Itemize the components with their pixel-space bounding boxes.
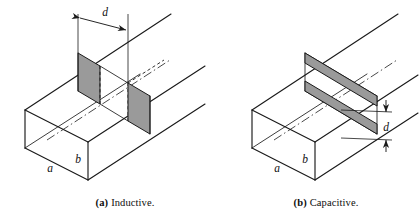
guide-edge-top-right-far-b — [315, 75, 418, 142]
panel-inductive: d a b — [25, 6, 205, 180]
front-face-top-edge — [25, 110, 88, 142]
near-iris-plate — [78, 53, 100, 104]
lower-iris-band — [305, 81, 377, 134]
caption-text-a: Inductive. — [111, 197, 154, 208]
dim-arrow-d-inductive — [80, 18, 126, 30]
far-iris-hidden-top — [128, 60, 164, 83]
upper-iris-band — [305, 53, 377, 106]
dim-label-a-inductive: a — [47, 162, 53, 174]
caption-tag-b: (b) — [294, 197, 307, 208]
panel-capacitive: d a b — [252, 14, 418, 180]
dim-label-d-capacitive: d — [383, 121, 389, 133]
caption-capacitive: (b)Capacitive. — [256, 197, 396, 208]
figure-canvas: d a b — [0, 0, 420, 222]
far-iris-plate — [128, 83, 150, 134]
dim-label-b-inductive: b — [75, 153, 81, 165]
dim-label-b-capacitive: b — [302, 153, 308, 165]
iris-gap-floor-line — [100, 104, 128, 121]
dim-label-d-inductive: d — [102, 6, 108, 18]
iris-gap-ceiling-line — [100, 66, 128, 83]
caption-inductive: (a)Inductive. — [60, 197, 190, 208]
dim-extension-lower-b — [341, 138, 392, 140]
dim-label-a-capacitive: a — [274, 162, 280, 174]
caption-text-b: Capacitive. — [310, 197, 359, 208]
front-face-top-edge-b — [252, 110, 315, 142]
caption-tag-a: (a) — [96, 197, 109, 208]
waveguide-iris-figure: d a b — [0, 0, 420, 222]
